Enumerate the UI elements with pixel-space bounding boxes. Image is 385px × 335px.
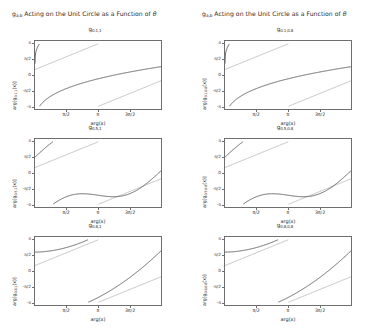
x-tick-mark [66, 208, 67, 210]
panel-title: g0.1,0.8 [190, 26, 380, 33]
suptitle-text-right: Acting on the Unit Circle as a Function … [212, 10, 342, 17]
x-tick-mark [98, 110, 99, 112]
y-tick-label: 0 [18, 268, 31, 273]
panel-title: g0.5,1 [0, 124, 190, 131]
plot-area [224, 138, 352, 208]
x-tick-label: π [276, 112, 300, 117]
x-tick-mark [130, 306, 131, 308]
x-tick-label: π [86, 308, 110, 313]
y-tick-label: 0 [208, 268, 221, 273]
y-tick-label: -π/2 [208, 186, 221, 191]
y-axis-label: arg[g0.1,1(x)] [12, 81, 18, 110]
x-tick-label: π [86, 112, 110, 117]
y-axis-label-subscript: 0.5,0.8 [204, 185, 208, 196]
y-tick-label: π/2 [18, 154, 31, 159]
x-tick-mark [288, 208, 289, 210]
x-tick-label: π [276, 210, 300, 215]
panel-panel-1-1: g0.5,0.8ππ/20-π/2-ππ/2π3π/2arg(x)arg[g0.… [190, 124, 380, 222]
y-tick-label: π [18, 40, 31, 45]
y-tick-label: π [18, 236, 31, 241]
y-tick-mark [32, 91, 34, 92]
x-tick-label: 3π/2 [118, 112, 142, 117]
panel-panel-2-1: g0.8,0.8ππ/20-π/2-ππ/2π3π/2arg(x)arg[g0.… [190, 222, 380, 320]
x-tick-mark [256, 208, 257, 210]
y-tick-label: π/2 [208, 252, 221, 257]
x-tick-label: π/2 [244, 308, 268, 313]
x-tick-mark [320, 208, 321, 210]
x-tick-mark [256, 306, 257, 308]
plot-area [34, 236, 162, 306]
y-axis-label-subscript: 0.5,1 [14, 188, 18, 196]
y-tick-label: -π [208, 202, 221, 207]
panel-title-subscript: 0.1,1 [92, 28, 101, 33]
y-tick-label: -π/2 [18, 186, 31, 191]
y-tick-mark [32, 239, 34, 240]
x-tick-mark [66, 306, 67, 308]
y-tick-label: π/2 [208, 154, 221, 159]
suptitle-theta-left: θ [153, 10, 157, 17]
panel-title-subscript: 0.5,0.8 [280, 126, 293, 131]
y-tick-mark [222, 287, 224, 288]
y-axis-label: arg[g0.1,0.8(x)] [202, 78, 208, 110]
x-tick-label: 3π/2 [308, 308, 332, 313]
x-axis-label: arg(x) [224, 316, 352, 322]
y-tick-label: π [18, 138, 31, 143]
panel-title-subscript: 0.1,0.8 [280, 28, 293, 33]
plot-area [34, 138, 162, 208]
y-tick-label: -π/2 [208, 88, 221, 93]
y-tick-mark [222, 43, 224, 44]
x-tick-mark [288, 306, 289, 308]
panel-title-subscript: 0.5,1 [92, 126, 101, 131]
y-tick-label: 0 [18, 72, 31, 77]
y-tick-mark [222, 75, 224, 76]
x-axis-label: arg(x) [34, 316, 162, 322]
y-tick-mark [32, 271, 34, 272]
x-tick-mark [130, 208, 131, 210]
panel-title: g0.1,1 [0, 26, 190, 33]
y-tick-label: -π [208, 300, 221, 305]
y-axis-label: arg[g0.5,0.8(x)] [202, 176, 208, 208]
panel-title: g0.8,0.8 [190, 222, 380, 229]
y-tick-mark [32, 205, 34, 206]
y-axis-label: arg[g0.8,1(x)] [12, 277, 18, 306]
x-tick-label: π/2 [54, 112, 78, 117]
y-tick-mark [32, 107, 34, 108]
y-axis-label-subscript: 0.1,0.8 [204, 87, 208, 98]
y-tick-mark [222, 255, 224, 256]
column-suptitle-left: ga,b Acting on the Unit Circle as a Func… [12, 10, 156, 18]
y-tick-mark [32, 287, 34, 288]
y-tick-mark [32, 173, 34, 174]
panel-panel-0-0: g0.1,1ππ/20-π/2-ππ/2π3π/2arg(x)arg[g0.1,… [0, 26, 190, 124]
y-axis-label: arg[g0.8,0.8(x)] [202, 274, 208, 306]
y-tick-mark [222, 271, 224, 272]
y-tick-mark [222, 141, 224, 142]
x-tick-mark [98, 306, 99, 308]
panel-title-subscript: 0.8,0.8 [280, 224, 293, 229]
y-tick-mark [222, 59, 224, 60]
y-tick-mark [222, 303, 224, 304]
y-tick-label: -π [208, 104, 221, 109]
x-tick-label: π [86, 210, 110, 215]
y-tick-mark [32, 75, 34, 76]
x-tick-label: π/2 [244, 210, 268, 215]
figure-root: ga,b Acting on the Unit Circle as a Func… [0, 0, 385, 335]
y-tick-label: 0 [18, 170, 31, 175]
x-tick-mark [320, 110, 321, 112]
y-tick-mark [32, 59, 34, 60]
x-tick-mark [130, 110, 131, 112]
y-tick-label: -π/2 [18, 88, 31, 93]
y-tick-label: π [208, 40, 221, 45]
column-suptitle-right: ga,b Acting on the Unit Circle as a Func… [202, 10, 346, 18]
x-tick-label: 3π/2 [308, 112, 332, 117]
y-tick-mark [222, 107, 224, 108]
y-axis-label-subscript: 0.8,1 [14, 286, 18, 294]
x-tick-label: π [276, 308, 300, 313]
x-tick-label: 3π/2 [118, 308, 142, 313]
y-tick-label: π [208, 138, 221, 143]
panel-panel-0-1: g0.1,0.8ππ/20-π/2-ππ/2π3π/2arg(x)arg[g0.… [190, 26, 380, 124]
y-tick-label: π/2 [208, 56, 221, 61]
panel-title: g0.8,1 [0, 222, 190, 229]
y-tick-label: -π/2 [18, 284, 31, 289]
panel-panel-2-0: g0.8,1ππ/20-π/2-ππ/2π3π/2arg(x)arg[g0.8,… [0, 222, 190, 320]
y-tick-mark [32, 189, 34, 190]
